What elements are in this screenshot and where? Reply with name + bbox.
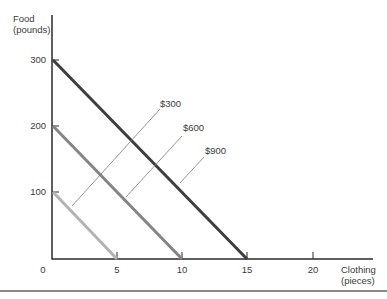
budget-label-300: $300: [160, 98, 181, 109]
y-axis-title-line1: Food: [13, 13, 35, 24]
budget-line-300: [53, 192, 117, 259]
x-tick-label-20: 20: [303, 264, 323, 275]
x-tick-label-15: 15: [237, 264, 257, 275]
y-tick-label-100: 100: [18, 186, 46, 197]
x-axis-title-line1: Clothing: [341, 264, 376, 275]
budget-label-900: $900: [205, 145, 226, 156]
bottom-divider: [0, 290, 387, 292]
x-tick-label-0: 0: [33, 264, 53, 275]
budget-line-900: [53, 60, 247, 259]
x-tick-label-10: 10: [172, 264, 192, 275]
budget-label-600: $600: [183, 122, 204, 133]
x-axis-title-line2: (pieces): [341, 275, 375, 286]
leader-line-900: [180, 157, 204, 183]
y-tick-label-300: 300: [18, 54, 46, 65]
budget-line-600: [53, 126, 182, 259]
y-tick-label-200: 200: [18, 120, 46, 131]
budget-lines-plot: [0, 0, 387, 299]
y-axis-title-line2: (pounds): [13, 24, 51, 35]
x-tick-label-5: 5: [107, 264, 127, 275]
